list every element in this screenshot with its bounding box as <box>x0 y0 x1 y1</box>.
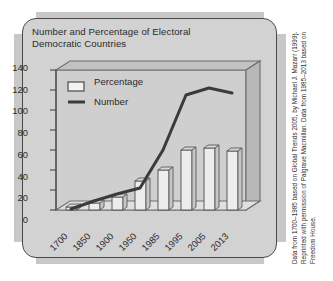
attribution-line-3: Freedom House. <box>309 216 316 264</box>
x-tick-1900: 1900 <box>94 231 116 253</box>
x-tick-1950: 1950 <box>117 231 139 253</box>
x-tick-1985: 1985 <box>140 231 162 253</box>
attribution-line-1: Data from 1700–1985 based on Global Tren… <box>291 32 298 264</box>
x-tick-1995: 1995 <box>163 231 185 253</box>
x-tick-1850: 1850 <box>71 231 93 253</box>
x-tick-1700: 1700 <box>48 231 70 253</box>
x-tick-2013: 2013 <box>209 231 231 253</box>
x-tick-2005: 2005 <box>186 231 208 253</box>
source-attribution: Data from 1700–1985 based on Global Tren… <box>291 16 331 266</box>
attribution-line-2: Reprinted with permission of Palgrave Ma… <box>300 32 307 264</box>
x-axis-tick-labels: 1700 1850 1900 1950 1985 1995 2005 2013 <box>0 0 333 281</box>
figure-root: Number and Percentage of Electoral Democ… <box>0 0 333 281</box>
